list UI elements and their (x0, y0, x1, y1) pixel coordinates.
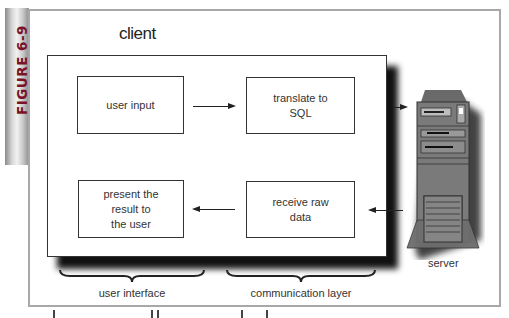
group-label-user-interface: user interface (58, 287, 206, 299)
box-label: receive raw data (272, 195, 328, 225)
cropped-text-fragment (53, 310, 55, 318)
brace-user-interface-icon (58, 268, 206, 284)
arrow-right-icon (193, 106, 234, 107)
box-user-input: user input (77, 76, 184, 134)
client-label: client (119, 24, 156, 44)
group-label-communication-layer: communication layer (225, 287, 377, 299)
box-receive-raw-data: receive raw data (246, 181, 355, 238)
box-label: translate to SQL (273, 91, 327, 121)
brace-communication-layer-icon (225, 268, 377, 284)
box-translate-to-sql: translate to SQL (246, 77, 355, 134)
figure-tab: FIGURE 6-9 (5, 8, 29, 165)
arrow-left-icon (370, 210, 403, 211)
server-label: server (428, 257, 459, 269)
cropped-text-fragment (157, 310, 159, 318)
cropped-text-fragment (266, 310, 268, 318)
box-present-result: present the result to the user (78, 180, 184, 238)
box-label: present the result to the user (103, 187, 158, 232)
arrow-left-icon (194, 209, 235, 210)
cropped-text-fragment (151, 310, 153, 318)
server-tower-icon (405, 90, 485, 260)
cropped-text-fragment (241, 310, 243, 318)
box-label: user input (106, 98, 154, 113)
